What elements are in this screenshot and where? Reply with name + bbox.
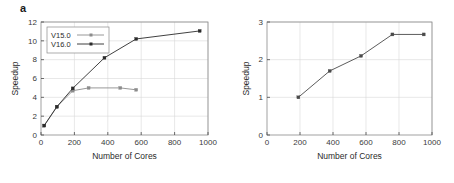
x-tick-label: 800 <box>392 138 406 147</box>
x-tick-label: 0 <box>265 138 270 147</box>
y-tick-label: 4 <box>33 93 38 102</box>
x-tick-label: 400 <box>101 138 115 147</box>
y-tick-label: 0 <box>259 131 264 140</box>
y-tick-label: 2 <box>259 55 264 64</box>
data-point <box>103 56 106 59</box>
panel-b-plot: 012302004006008001000Number of CoresSpee… <box>227 0 454 183</box>
data-point <box>422 33 425 36</box>
series-speedup <box>297 33 425 99</box>
x-tick-label: 400 <box>326 138 340 147</box>
legend-swatch-marker <box>90 43 93 46</box>
y-tick-label: 12 <box>28 18 37 27</box>
data-point <box>119 86 122 89</box>
legend-swatch-marker <box>90 34 93 37</box>
x-tick-label: 800 <box>168 138 182 147</box>
x-tick-label: 0 <box>39 138 44 147</box>
y-axis-label: Speedup <box>10 61 20 95</box>
data-point <box>43 124 46 127</box>
series-line <box>298 34 423 97</box>
data-point <box>87 86 90 89</box>
y-tick-label: 0 <box>33 131 38 140</box>
y-tick-label: 10 <box>28 37 37 46</box>
x-tick-label: 200 <box>293 138 307 147</box>
y-tick-label: 2 <box>33 112 38 121</box>
x-tick-label: 200 <box>68 138 82 147</box>
x-tick-label: 1000 <box>199 138 217 147</box>
legend-label: V16.0 <box>51 40 71 49</box>
x-axis-label: Number of Cores <box>92 151 157 161</box>
x-tick-label: 600 <box>359 138 373 147</box>
x-axis-label: Number of Cores <box>317 151 382 161</box>
y-tick-label: 3 <box>259 18 264 27</box>
data-point <box>297 96 300 99</box>
y-axis-label: Speedup <box>241 61 251 95</box>
figure-container: a 02468101202004006008001000Number of Co… <box>0 0 454 183</box>
data-point <box>135 37 138 40</box>
data-point <box>55 105 58 108</box>
data-point <box>360 54 363 57</box>
panel-a: a 02468101202004006008001000Number of Co… <box>0 0 227 183</box>
plot-frame <box>267 22 432 135</box>
data-point <box>198 29 201 32</box>
y-tick-label: 8 <box>33 55 38 64</box>
panel-b: b 012302004006008001000Number of CoresSp… <box>227 0 454 183</box>
data-point <box>71 87 74 90</box>
y-tick-label: 1 <box>259 93 264 102</box>
data-point <box>328 69 331 72</box>
x-tick-label: 1000 <box>423 138 441 147</box>
legend-label: V15.0 <box>51 31 71 40</box>
legend: V15.0V16.0 <box>47 27 109 53</box>
y-tick-label: 6 <box>33 74 38 83</box>
data-point <box>391 33 394 36</box>
panel-a-plot: 02468101202004006008001000Number of Core… <box>0 0 227 183</box>
data-point <box>135 88 138 91</box>
x-tick-label: 600 <box>135 138 149 147</box>
